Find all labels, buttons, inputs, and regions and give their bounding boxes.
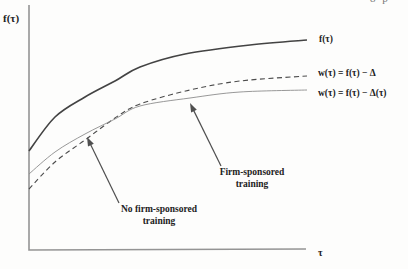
annotation-text-line: training xyxy=(206,179,298,191)
y-axis-label: f(τ) xyxy=(3,13,19,24)
x-axis-label: τ xyxy=(318,247,323,258)
page-header-fragment: 8 p xyxy=(370,0,390,4)
annotation-firm-sponsored-training: Firm-sponsored training xyxy=(206,167,298,190)
figure-canvas: 8 p f(τ) τ f(τ) w(τ) = f(τ) − Δ w(τ) = f… xyxy=(0,0,408,269)
chart-svg xyxy=(0,0,408,269)
annotation-text-line: No firm-sponsored xyxy=(104,204,214,216)
annotation-text-line: Firm-sponsored xyxy=(206,167,298,179)
annotation-no-firm-sponsored-training: No firm-sponsored training xyxy=(104,204,214,227)
annotation-arrow-line-0 xyxy=(90,142,119,203)
curve-label-w-delta-of-tau: w(τ) = f(τ) − Δ(τ) xyxy=(318,88,386,99)
annotation-text-line: training xyxy=(104,216,214,228)
curve-w-delta-of-tau xyxy=(29,90,307,174)
curve-label-w-constant-delta: w(τ) = f(τ) − Δ xyxy=(318,68,376,79)
annotation-arrow-line-1 xyxy=(193,108,221,166)
curve-f-tau xyxy=(29,40,307,151)
annotation-arrowhead-0 xyxy=(87,137,94,147)
curve-label-f-tau: f(τ) xyxy=(319,34,333,45)
annotation-arrowhead-1 xyxy=(190,103,197,113)
